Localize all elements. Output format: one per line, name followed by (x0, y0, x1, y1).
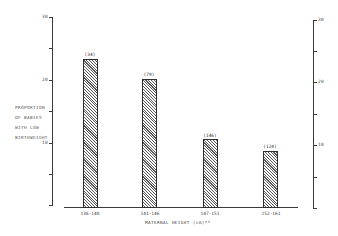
bar-annotation-3: (146) (195, 134, 225, 139)
right-tick-label-10: 10 (318, 143, 324, 148)
left-tick-5 (49, 174, 53, 175)
left-tick-15 (49, 111, 53, 112)
y-axis-title-line-3: WITH LOW (15, 123, 48, 133)
left-tick-20 (49, 80, 53, 81)
y-axis-title-line-1: PROPORTION (15, 103, 48, 113)
left-tick-0 (49, 205, 53, 206)
category-label-4: 152-161 (251, 212, 291, 217)
category-label-1: 136-140 (70, 212, 110, 217)
bar-annotation-2: (79) (134, 73, 164, 78)
right-axis-foot (313, 208, 317, 209)
left-tick-label-20: 20 (42, 78, 48, 83)
category-label-2: 141-146 (130, 212, 170, 217)
left-tick-25 (49, 48, 53, 49)
x-axis-title: MATERNAL HEIGHT (cm)** (145, 220, 211, 225)
right-tick-25 (313, 51, 317, 52)
left-tick-10 (49, 143, 53, 144)
left-tick-label-30: 30 (42, 15, 48, 20)
left-tick-30 (49, 17, 53, 18)
right-tick-30 (313, 20, 317, 21)
category-label-3: 147-151 (190, 212, 230, 217)
y-axis-title: PROPORTION OF BABIES WITH LOW BIRTHWEIGH… (15, 103, 48, 143)
bar-annotation-4: (124) (255, 145, 285, 150)
bar-141-146 (142, 79, 157, 208)
bar-annotation-1: (34) (75, 53, 105, 58)
bar-152-161 (263, 151, 278, 208)
right-tick-10 (313, 145, 317, 146)
right-tick-20 (313, 82, 317, 83)
y-axis-title-line-2: OF BABIES (15, 113, 48, 123)
right-tick-label-30: 30 (318, 18, 324, 23)
bar-136-140 (83, 59, 98, 208)
bar-chart: 30 20 10 PROPORTION OF BABIES WITH LOW B… (0, 0, 338, 236)
right-tick-15 (313, 114, 317, 115)
bar-147-151 (203, 139, 218, 208)
y-axis-title-line-4: BIRTHWEIGHT (15, 133, 48, 143)
right-tick-5 (313, 177, 317, 178)
right-tick-label-20: 20 (318, 80, 324, 85)
